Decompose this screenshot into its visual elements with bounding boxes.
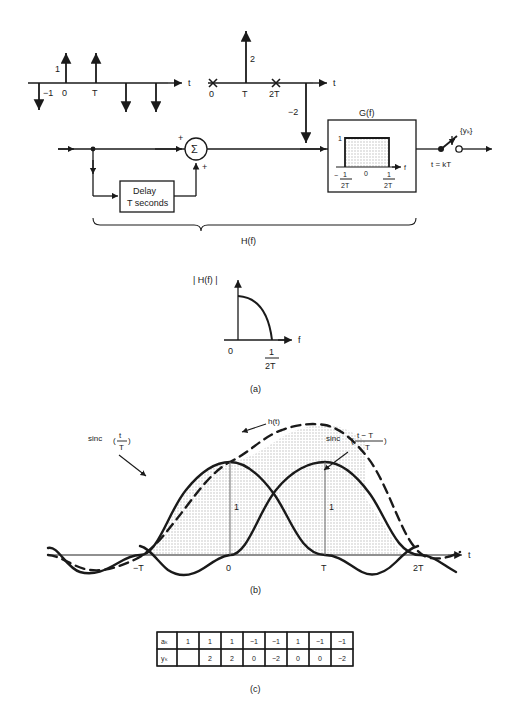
- summer-symbol: Σ: [191, 143, 198, 155]
- right-sinc-fn: sinc: [326, 434, 340, 443]
- table-cell-value: 0: [252, 655, 256, 662]
- filter-tick-center: 0: [364, 170, 368, 177]
- table-cell-value: −2: [338, 655, 346, 662]
- table-cell-value: 2: [230, 655, 234, 662]
- page-background: [0, 0, 512, 712]
- left-sinc-den: T: [119, 443, 124, 452]
- table-cell-value: −1: [316, 638, 324, 645]
- sampler-open-terminal: [456, 146, 462, 152]
- sinc-tick-T: T: [321, 563, 327, 573]
- panel-b-caption: (b): [250, 585, 261, 595]
- table-cell-value: 1: [186, 638, 190, 645]
- delay-block-line1: Delay: [133, 186, 157, 196]
- summer-plus-top: +: [178, 133, 183, 143]
- right-sinc-paren-open: (: [351, 436, 354, 445]
- filter-axis-label: f: [404, 164, 406, 171]
- magnitude-y-label: | H(f) |: [193, 275, 218, 285]
- table-cell-value: −1: [272, 638, 280, 645]
- filter-tick-left-den: 2T: [341, 182, 350, 189]
- table-cell-value: 1: [296, 638, 300, 645]
- sampler-label: t = kT: [431, 160, 451, 169]
- panel-c-caption: (c): [250, 684, 261, 694]
- left-sinc-fn: sinc: [88, 434, 102, 443]
- ht-label: h(t): [268, 417, 280, 426]
- sinc-tick-2T: 2T: [413, 563, 424, 573]
- filter-tick-left-sign: −: [334, 172, 338, 179]
- hf-brace-label: H(f): [241, 236, 256, 246]
- delay-block-line2: T seconds: [127, 198, 169, 208]
- output-tick-T: T: [242, 89, 248, 99]
- output-tick-2T: 2T: [269, 89, 280, 99]
- input-tick-T: T: [92, 88, 98, 98]
- panel-a-caption: (a): [250, 384, 261, 394]
- sinc-height-label-0: 1: [234, 502, 239, 512]
- sinc-height-label-1: 1: [329, 502, 334, 512]
- sinc-tick-0: 0: [226, 563, 231, 573]
- output-tick-0: 0: [209, 89, 214, 99]
- filter-tick-right-den: 2T: [384, 182, 393, 189]
- table-cell-value: 0: [296, 655, 300, 662]
- right-sinc-paren-close: ): [384, 436, 387, 445]
- magnitude-tick-origin: 0: [228, 346, 233, 356]
- filter-passband-fill: [345, 138, 389, 167]
- filter-tick-right-num: 1: [387, 171, 391, 178]
- right-sinc-num: t − T: [357, 431, 373, 440]
- filter-title: G(f): [359, 108, 375, 118]
- right-sinc-den: T: [365, 443, 370, 452]
- magnitude-tick-cutoff-den: 2T: [265, 361, 276, 371]
- table-cell-value: −1: [338, 638, 346, 645]
- table-cell-value: −1: [250, 638, 258, 645]
- output-impulse-label-two: 2: [250, 54, 255, 64]
- table-cell-value: 0: [318, 655, 322, 662]
- input-tick-0: 0: [62, 88, 67, 98]
- sampler-output-label: {yₖ}: [460, 126, 473, 135]
- filter-tick-left-num: 1: [343, 171, 347, 178]
- table-row-header: yₖ: [161, 655, 168, 663]
- sinc-tick-negT: −T: [133, 563, 144, 573]
- table-cell-value: 1: [230, 638, 234, 645]
- output-impulse-label-negtwo: −2: [288, 107, 298, 117]
- table-cell-value: 1: [208, 638, 212, 645]
- input-impulse-label-one: 1: [55, 64, 60, 74]
- table-cell-value: 2: [208, 655, 212, 662]
- table-row-header: aₖ: [161, 638, 168, 645]
- table-cell-value: −2: [272, 655, 280, 662]
- left-sinc-paren-close: ): [128, 436, 131, 445]
- left-sinc-paren-open: (: [113, 436, 116, 445]
- input-impulse-label-neg1: −1: [43, 88, 53, 98]
- summer-plus-bottom: +: [202, 162, 207, 172]
- figure-canvas: t −1 1 0 T t 0 2 T: [0, 0, 512, 712]
- filter-amplitude-label: 1: [338, 135, 342, 142]
- magnitude-tick-cutoff-num: 1: [269, 347, 274, 357]
